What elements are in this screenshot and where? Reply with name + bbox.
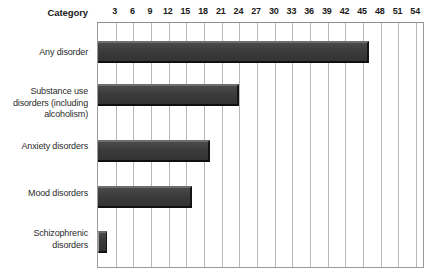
label-line: Mood disorders [0, 188, 88, 200]
label-line: alcoholism) [0, 109, 88, 121]
x-tick-label-15: 15 [181, 6, 191, 16]
bar-fill [98, 43, 367, 61]
x-tick-label-54: 54 [410, 6, 420, 16]
x-tick-label-27: 27 [251, 6, 261, 16]
bar-fill [99, 233, 106, 251]
bar-substance-use-disorders-including-alcoholism [98, 84, 239, 106]
gridline-48 [381, 23, 382, 267]
x-tick-label-51: 51 [393, 6, 403, 16]
x-tick-label-18: 18 [198, 6, 208, 16]
category-axis-title: Category [48, 7, 88, 18]
category-label-column: Category Any disorder Substance usedisor… [0, 0, 92, 278]
bar-fill [98, 142, 208, 160]
label-line: Substance use [0, 86, 88, 98]
x-tick-label-30: 30 [269, 6, 279, 16]
x-tick-label-42: 42 [340, 6, 350, 16]
bar-schizophrenic-disorders [98, 231, 107, 253]
bar-chart: Category Any disorder Substance usedisor… [0, 0, 429, 278]
category-label-anxiety-disorders: Anxiety disorders [0, 141, 88, 153]
category-label-schizophrenic-disorders: Schizophrenicdisorders [0, 228, 88, 251]
x-tick-label-48: 48 [375, 6, 385, 16]
x-tick-label-33: 33 [287, 6, 297, 16]
bar-fill [98, 188, 190, 206]
gridline-51 [398, 23, 399, 267]
x-tick-label-24: 24 [234, 6, 244, 16]
gridline-54 [416, 23, 417, 267]
bar-fill [98, 86, 237, 104]
x-tick-label-45: 45 [357, 6, 367, 16]
bar-mood-disorders [98, 186, 192, 208]
label-line: disorders [0, 240, 88, 252]
label-line: disorders (including [0, 98, 88, 110]
x-tick-label-12: 12 [163, 6, 173, 16]
label-line: Anxiety disorders [0, 141, 88, 153]
x-tick-label-36: 36 [304, 6, 314, 16]
category-label-substance-use-disorders: Substance usedisorders (includingalcohol… [0, 86, 88, 121]
x-tick-label-3: 3 [112, 6, 117, 16]
bar-anxiety-disorders [98, 140, 210, 162]
bar-any-disorder [98, 41, 369, 63]
plot-area [97, 22, 424, 268]
x-tick-label-6: 6 [130, 6, 135, 16]
label-line: Schizophrenic [0, 228, 88, 240]
label-line: Any disorder [0, 47, 88, 59]
category-label-mood-disorders: Mood disorders [0, 188, 88, 200]
category-label-any-disorder: Any disorder [0, 47, 88, 59]
x-tick-label-39: 39 [322, 6, 332, 16]
x-tick-label-9: 9 [148, 6, 153, 16]
x-tick-label-21: 21 [216, 6, 226, 16]
